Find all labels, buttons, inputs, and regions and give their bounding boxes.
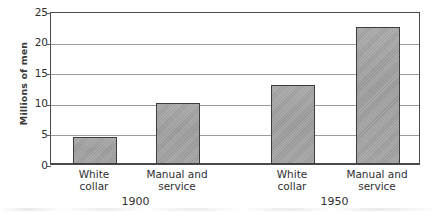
y-tick-label-0: 0	[22, 160, 48, 171]
y-tick-mark-0	[47, 166, 51, 167]
category-label-1900-white-collar: White collar	[49, 169, 139, 192]
bar-1900-manual-and	[156, 103, 200, 164]
y-tick-label-5: 5	[22, 129, 48, 140]
bar-1950-manual-and	[356, 27, 400, 164]
y-tick-label-10: 10	[22, 98, 48, 109]
y-tick-mark-20	[47, 44, 51, 45]
y-tick-mark-5	[47, 135, 51, 136]
y-tick-label-15: 15	[22, 68, 48, 79]
bar-chart: Millions of men 0 5 10 15 20 25 White co…	[0, 0, 439, 213]
y-tick-mark-10	[47, 105, 51, 106]
category-label-1950-manual-and-service: Manual and service	[332, 169, 422, 192]
scan-artifact	[0, 208, 439, 211]
y-tick-label-25: 25	[22, 7, 48, 18]
y-tick-mark-25	[47, 13, 51, 14]
group-label-1900: 1900	[96, 195, 176, 208]
y-axis-tick-labels: 0 5 10 15 20 25	[18, 0, 48, 213]
y-tick-label-20: 20	[22, 37, 48, 48]
category-label-1900-manual-and-service: Manual and service	[132, 169, 222, 192]
plot-area	[50, 12, 420, 165]
group-label-1950: 1950	[295, 195, 375, 208]
y-tick-mark-15	[47, 74, 51, 75]
bar-1900-white	[73, 137, 117, 164]
bar-1950-white	[271, 85, 315, 164]
category-label-1950-white-collar: White collar	[247, 169, 337, 192]
